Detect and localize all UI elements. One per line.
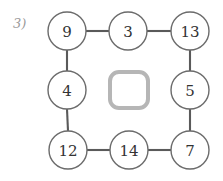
node-middle-left[interactable]: 4 xyxy=(48,71,86,109)
node-top-center[interactable]: 3 xyxy=(109,12,147,50)
center-empty-slot[interactable] xyxy=(110,72,148,108)
node-value-label: 7 xyxy=(185,142,195,160)
node-top-left[interactable]: 9 xyxy=(48,12,86,50)
node-value-label: 14 xyxy=(119,142,138,160)
node-value-label: 5 xyxy=(185,82,195,100)
node-bottom-right[interactable]: 7 xyxy=(171,131,209,169)
worksheet-page: 3) 93134512147 xyxy=(0,0,223,181)
node-value-label: 13 xyxy=(180,23,199,41)
node-middle-right[interactable]: 5 xyxy=(171,71,209,109)
node-value-label: 12 xyxy=(58,142,77,160)
node-value-label: 3 xyxy=(123,23,133,41)
empty-slot-group[interactable] xyxy=(110,72,148,108)
node-value-label: 4 xyxy=(62,82,72,100)
node-bottom-center[interactable]: 14 xyxy=(110,131,148,169)
node-value-label: 9 xyxy=(62,23,72,41)
number-ring-puzzle: 93134512147 xyxy=(0,0,223,181)
connector-line xyxy=(67,109,68,131)
node-top-right[interactable]: 13 xyxy=(171,12,209,50)
node-bottom-left[interactable]: 12 xyxy=(49,131,87,169)
